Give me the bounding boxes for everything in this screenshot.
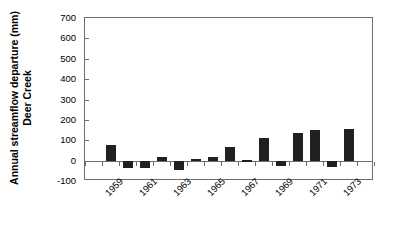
bar-series — [85, 18, 372, 179]
y-tick-label: 100 — [60, 134, 76, 145]
y-tick-label: 200 — [60, 113, 76, 124]
y-tick-label: 0 — [71, 154, 76, 165]
bar — [123, 161, 133, 168]
y-tick-label: 700 — [60, 12, 76, 23]
bar — [106, 145, 116, 160]
bar — [242, 160, 252, 162]
y-tick-label: 500 — [60, 52, 76, 63]
bar — [174, 161, 184, 170]
bar — [344, 129, 354, 161]
bar — [140, 161, 150, 168]
y-tick-label: 600 — [60, 32, 76, 43]
bar — [310, 130, 320, 161]
category-tick-mark — [374, 162, 375, 166]
y-tick-label: 300 — [60, 93, 76, 104]
streamflow-departure-chart: Annual streamflow departure (mm) Deer Cr… — [0, 0, 395, 229]
bar — [327, 161, 337, 167]
y-axis-tick-labels: 7006005004003002001000-100 — [40, 12, 80, 187]
y-tick-label: 400 — [60, 73, 76, 84]
bar — [276, 161, 286, 166]
bar — [259, 138, 269, 160]
bar — [191, 159, 201, 161]
bar — [293, 133, 303, 161]
x-axis-tick-labels: 19591961196319651967196919711973 — [84, 181, 373, 229]
y-axis-title-line-1: Annual streamflow departure (mm) — [8, 11, 21, 185]
bar — [225, 147, 235, 160]
y-axis-title: Annual streamflow departure (mm) Deer Cr… — [0, 0, 40, 195]
y-tick-label: -100 — [57, 175, 76, 186]
bar — [157, 157, 167, 161]
plot-area — [84, 17, 373, 180]
bar — [208, 157, 218, 161]
y-axis-title-line-2: Deer Creek — [20, 11, 33, 185]
